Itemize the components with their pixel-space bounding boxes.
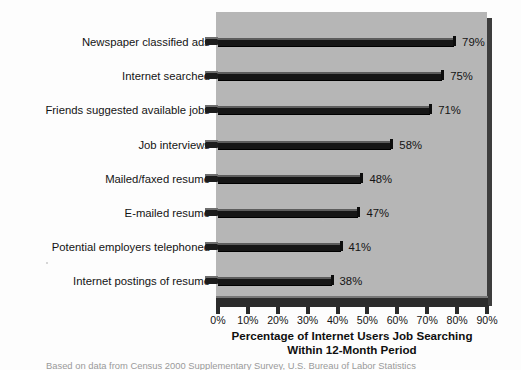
x-axis-tick-label: 50% xyxy=(357,313,378,327)
bar-left-stub xyxy=(205,73,218,79)
x-axis-tick-label: 20% xyxy=(267,313,288,327)
bar-value-label: 79% xyxy=(462,32,485,52)
bar-left-stub xyxy=(205,142,218,148)
bar-value-label: 71% xyxy=(438,100,461,120)
bar-row: Friends suggested available jobs71% xyxy=(0,100,521,120)
bar-row: E-mailed resume47% xyxy=(0,203,521,223)
x-axis-tick-label: 0% xyxy=(210,313,225,327)
category-label: E-mailed resume xyxy=(125,203,210,223)
x-axis-title: Percentage of Internet Users Job Searchi… xyxy=(216,329,488,357)
category-label: Newspaper classified ads xyxy=(82,32,210,52)
bar-value-label: 75% xyxy=(450,66,473,86)
bar xyxy=(218,141,391,149)
category-label: Friends suggested available jobs xyxy=(45,100,210,120)
x-axis-tick-label: 60% xyxy=(387,313,408,327)
x-axis-title-line2: Within 12-Month Period xyxy=(216,343,488,357)
bar xyxy=(218,38,454,46)
bar-row: Internet postings of resume38% xyxy=(0,271,521,291)
bar xyxy=(218,72,442,80)
x-axis-title-line1: Percentage of Internet Users Job Searchi… xyxy=(216,329,488,343)
plot-area xyxy=(216,12,487,301)
bar-value-label: 38% xyxy=(340,271,363,291)
chart-figure: Newspaper classified ads79%Internet sear… xyxy=(0,0,521,370)
bar xyxy=(218,175,361,183)
bar-row: Mailed/faxed resume48% xyxy=(0,169,521,189)
x-axis-tick-label: 30% xyxy=(297,313,318,327)
plot-panel-shadow-right xyxy=(487,18,492,306)
paper-speck xyxy=(46,262,48,264)
category-label: Internet searched xyxy=(122,66,210,86)
x-axis-tick-label: 70% xyxy=(417,313,438,327)
bar-left-stub xyxy=(205,278,218,284)
bar-value-label: 58% xyxy=(399,135,422,155)
x-axis-tick-label: 40% xyxy=(327,313,348,327)
bar-row: Job interviews58% xyxy=(0,135,521,155)
bar-value-label: 41% xyxy=(349,237,372,257)
category-label: Job interviews xyxy=(138,135,210,155)
figure-caption: Based on data from Census 2000 Supplemen… xyxy=(46,362,416,370)
bar-left-stub xyxy=(205,107,218,113)
category-label: Mailed/faxed resume xyxy=(105,169,210,189)
bar-row: Internet searched75% xyxy=(0,66,521,86)
category-label: Internet postings of resume xyxy=(73,271,210,291)
bar xyxy=(218,106,430,114)
bar-value-label: 47% xyxy=(366,203,389,223)
bar-left-stub xyxy=(205,244,218,250)
category-label: Potential employers telephoned xyxy=(52,237,210,257)
bar-value-label: 48% xyxy=(369,169,392,189)
bar-left-stub xyxy=(205,210,218,216)
x-axis-tick-label: 10% xyxy=(237,313,258,327)
x-axis-tick-label: 90% xyxy=(476,313,497,327)
bar xyxy=(218,243,341,251)
bar xyxy=(218,277,332,285)
bar-row: Potential employers telephoned41% xyxy=(0,237,521,257)
figure-caption-strip: Based on data from Census 2000 Supplemen… xyxy=(0,362,521,370)
bar-row: Newspaper classified ads79% xyxy=(0,32,521,52)
bar-left-stub xyxy=(205,176,218,182)
bar xyxy=(218,209,358,217)
x-axis-tick-label: 80% xyxy=(447,313,468,327)
x-axis-line xyxy=(216,296,488,307)
bar-left-stub xyxy=(205,39,218,45)
